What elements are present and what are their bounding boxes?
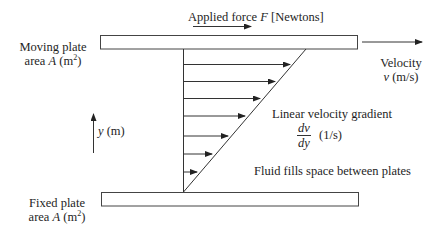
velocity-label: Velocity v (m/s): [372, 56, 430, 84]
fixed-plate-label: Fixed plate area A (m2): [22, 196, 92, 224]
applied-force-label: Applied force F [Newtons]: [188, 10, 324, 24]
fixed-plate: [102, 193, 359, 207]
gradient-unit: (1/s): [319, 128, 342, 142]
moving-plate: [101, 36, 358, 50]
gradient-fraction: dv dy: [297, 121, 311, 150]
y-axis-label: y (m): [98, 124, 125, 138]
moving-plate-label: Moving plate area A (m2): [18, 40, 88, 68]
gradient-label: Linear velocity gradient: [272, 107, 392, 121]
fluid-note: Fluid fills space between plates: [254, 164, 411, 178]
